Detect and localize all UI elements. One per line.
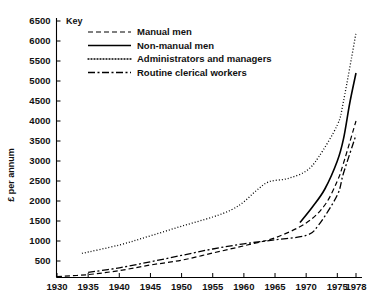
x-tick-label: 1935 xyxy=(78,281,100,292)
line-chart: 5001000150020002500300035004000450050005… xyxy=(0,0,380,306)
y-tick-label: 6000 xyxy=(29,35,50,46)
y-tick-label: 500 xyxy=(35,255,51,266)
x-tick-label: 1970 xyxy=(296,281,317,292)
x-axis-ticks: 1930193519401945195019551960196519701975… xyxy=(46,273,366,292)
y-tick-label: 3500 xyxy=(29,135,50,146)
y-tick-label: 5500 xyxy=(29,55,50,66)
x-tick-label: 1965 xyxy=(264,281,286,292)
y-tick-label: 2500 xyxy=(29,175,50,186)
x-tick-label: 1960 xyxy=(233,281,254,292)
legend-title: Key xyxy=(66,16,83,26)
y-tick-label: 5000 xyxy=(29,75,50,86)
y-tick-label: 4000 xyxy=(29,115,50,126)
x-tick-label: 1940 xyxy=(109,281,130,292)
x-tick-label: 1955 xyxy=(202,281,224,292)
y-tick-label: 1500 xyxy=(29,215,50,226)
y-tick-label: 6500 xyxy=(29,15,50,26)
y-tick-label: 4500 xyxy=(29,95,50,106)
chart-container: 5001000150020002500300035004000450050005… xyxy=(0,0,380,306)
y-tick-label: 2000 xyxy=(29,195,50,206)
x-tick-label: 1978 xyxy=(345,281,366,292)
chart-legend: KeyManual menNon-manual menAdministrator… xyxy=(66,16,272,78)
y-tick-label: 1000 xyxy=(29,235,50,246)
y-axis-title: £ per annum xyxy=(6,148,16,202)
y-axis-ticks: 5001000150020002500300035004000450050005… xyxy=(29,15,60,266)
legend-label: Administrators and managers xyxy=(137,53,272,64)
y-axis-label: £ per annum xyxy=(6,148,16,202)
x-tick-label: 1930 xyxy=(46,281,67,292)
x-tick-label: 1945 xyxy=(140,281,162,292)
legend-label: Routine clerical workers xyxy=(137,67,247,78)
legend-label: Non-manual men xyxy=(137,40,214,51)
legend-label: Manual men xyxy=(137,26,192,37)
x-tick-label: 1950 xyxy=(171,281,192,292)
series-line-manual-men xyxy=(57,121,356,277)
y-tick-label: 3000 xyxy=(29,155,50,166)
